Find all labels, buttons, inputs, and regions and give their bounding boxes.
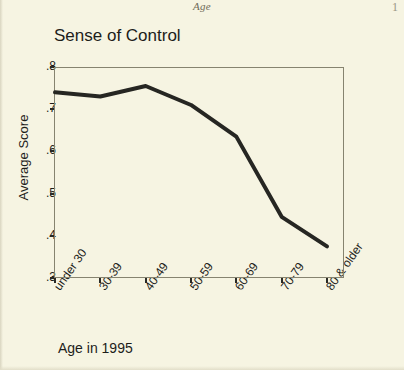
plot-area [54,67,344,278]
line-chart-figure: Sense of Control Average Score .8.7.6.5.… [0,0,404,370]
data-series-line [55,86,327,246]
chart-title: Sense of Control [54,26,181,46]
x-axis-title: Age in 1995 [58,340,133,356]
